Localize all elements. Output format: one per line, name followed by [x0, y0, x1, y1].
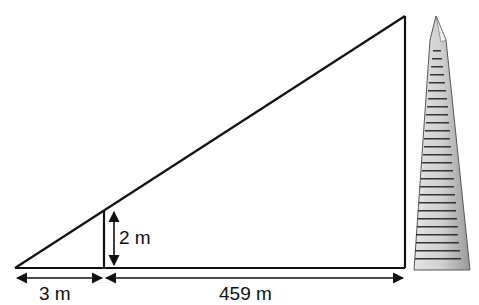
stick-height-label: 2 m	[119, 227, 151, 249]
long-base-label: 459 m	[219, 283, 272, 305]
short-base-label: 3 m	[39, 283, 71, 305]
large-triangle	[15, 16, 405, 268]
skyscraper-icon	[414, 16, 470, 270]
similar-triangles-diagram	[0, 0, 479, 305]
